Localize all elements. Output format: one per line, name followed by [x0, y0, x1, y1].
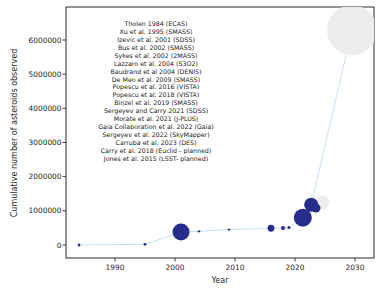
- y-tick-label: 5000000: [29, 70, 62, 79]
- citation-line: Sergeyev and Carry 2021 (SDSS): [104, 107, 208, 115]
- data-point-sdss: [294, 209, 312, 227]
- figure: Tholen 1984 (ECAS)Xu et al. 1995 (SMASS)…: [0, 0, 379, 294]
- y-tick-label: 3000000: [29, 138, 62, 147]
- citation-line: Sergeyev et al. 2022 (SkyMapper): [102, 131, 209, 139]
- x-tick-label: 2010: [226, 263, 245, 272]
- citation-line: Baudrand et al 2004 (DENIS): [111, 68, 202, 75]
- citation-line: Jones et al. 2015 (LSST- planned): [103, 155, 208, 163]
- x-axis-title: Year: [211, 276, 230, 285]
- x-tick-label: 2030: [346, 263, 365, 272]
- y-axis-ticks: 0100000020000003000000400000050000006000…: [29, 36, 66, 250]
- citation-line: Tholen 1984 (ECAS): [124, 20, 188, 27]
- data-point-smass: [144, 243, 147, 246]
- citation-line: Popescu et al. 2016 (VISTA): [113, 83, 200, 91]
- y-axis-title: Cumulative number of asteroids observed: [10, 49, 19, 217]
- data-point-lsst: [327, 5, 377, 55]
- x-tick-label: 2000: [166, 263, 185, 272]
- x-axis-ticks: 19902000201020202030: [106, 258, 365, 272]
- citation-line: Carruba et al. 2023 (DES): [116, 139, 197, 146]
- citation-line: Lazzaro et al. 2004 (S3O2): [114, 60, 198, 67]
- asteroid-surveys-chart: Tholen 1984 (ECAS)Xu et al. 1995 (SMASS)…: [0, 0, 379, 294]
- y-tick-label: 0: [57, 241, 62, 250]
- citation-line: Morate et al. 2021 (J-PLUS): [114, 115, 198, 123]
- citation-list: Tholen 1984 (ECAS)Xu et al. 1995 (SMASS)…: [98, 20, 214, 163]
- y-tick-label: 2000000: [29, 172, 62, 181]
- citation-line: Izevic et al. 2001 (SDSS): [117, 36, 195, 43]
- citation-line: Sykes et al. 2002 (2MASS): [115, 52, 198, 60]
- y-tick-label: 6000000: [29, 36, 62, 45]
- citation-line: Carry et al. 2018 (Euclid - planned): [101, 147, 212, 155]
- data-point-skymapper: [312, 204, 321, 213]
- data-point-ecas: [78, 244, 81, 247]
- data-point-vista: [281, 226, 285, 230]
- data-point-smass: [288, 226, 291, 229]
- y-tick-label: 1000000: [29, 206, 62, 215]
- citation-line: De Meo et al. 2009 (SMASS): [112, 76, 201, 83]
- citation-line: Bus et al. 2002 (SMASS): [118, 44, 194, 51]
- citation-line: Binzel et al. 2019 (SMASS): [114, 99, 198, 106]
- citation-line: Xu et al. 1995 (SMASS): [120, 28, 193, 35]
- data-point-vista: [268, 225, 275, 232]
- data-point-smass: [228, 228, 230, 230]
- data-point-sdss: [173, 224, 190, 241]
- x-tick-label: 1990: [106, 263, 125, 272]
- citation-line: Gaia Collaboration et al. 2022 (Gaia): [98, 123, 214, 130]
- data-point-s3o2-denis: [198, 230, 200, 232]
- citation-line: Popescu et al. 2018 (VISTA): [113, 91, 200, 99]
- x-tick-label: 2020: [286, 263, 305, 272]
- y-tick-label: 4000000: [29, 104, 62, 113]
